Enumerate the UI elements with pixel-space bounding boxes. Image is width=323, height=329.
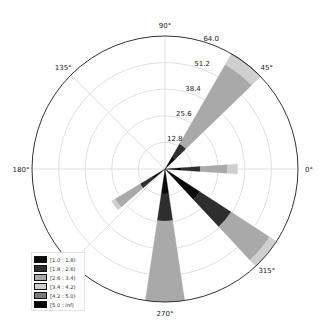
legend-item: [4.2 : 5.0): [34, 291, 82, 300]
radial-tick-label: 38.4: [185, 85, 201, 93]
windrose-segment: [161, 169, 168, 194]
radial-tick-label: 51.2: [194, 60, 210, 68]
legend-swatch: [34, 256, 47, 263]
radial-tick-label: 64.0: [203, 35, 219, 43]
angle-tick-label: 0°: [305, 166, 313, 174]
legend-item: [3.4 : 4.2): [34, 282, 82, 291]
legend-item: [1.8 : 2.6): [34, 264, 82, 273]
angle-tick-label: 270°: [157, 310, 174, 318]
windrose-segment: [227, 164, 238, 174]
windrose-segment: [165, 156, 175, 169]
windrose-segment: [165, 168, 182, 170]
legend-label: [3.4 : 4.2): [50, 284, 76, 290]
legend-label: [4.2 : 5.0): [50, 293, 76, 299]
windrose-segment: [182, 167, 201, 172]
legend-swatch: [34, 283, 47, 290]
windrose-segment: [153, 169, 165, 179]
legend-swatch: [34, 274, 47, 281]
windrose-segment: [157, 194, 172, 221]
windrose-segment: [200, 165, 227, 174]
legend-label: [1.8 : 2.6): [50, 266, 76, 272]
legend-item: [1.0 : 1.8): [34, 255, 82, 264]
legend-swatch: [34, 265, 47, 272]
grid-spoke: [71, 169, 165, 263]
windrose-segment: [145, 220, 184, 302]
legend-swatch: [34, 292, 47, 299]
angle-tick-label: 315°: [258, 267, 275, 275]
legend-label: [2.6 : 3.4): [50, 275, 76, 281]
legend-item: [5.0 : inf): [34, 300, 82, 309]
radial-tick-label: 25.6: [176, 110, 192, 118]
legend-item: [2.6 : 3.4): [34, 273, 82, 282]
legend-swatch: [34, 301, 47, 308]
angle-tick-label: 135°: [55, 64, 72, 72]
legend-label: [5.0 : inf): [50, 302, 74, 308]
legend: [1.0 : 1.8)[1.8 : 2.6)[2.6 : 3.4)[3.4 : …: [31, 252, 85, 311]
legend-label: [1.0 : 1.8): [50, 257, 76, 263]
grid-spoke: [71, 75, 165, 169]
radial-tick-label: 12.8: [167, 135, 183, 143]
angle-tick-label: 45°: [261, 64, 273, 72]
windrose-segment: [180, 65, 252, 149]
angle-tick-label: 90°: [159, 22, 171, 30]
angle-tick-label: 180°: [13, 166, 30, 174]
